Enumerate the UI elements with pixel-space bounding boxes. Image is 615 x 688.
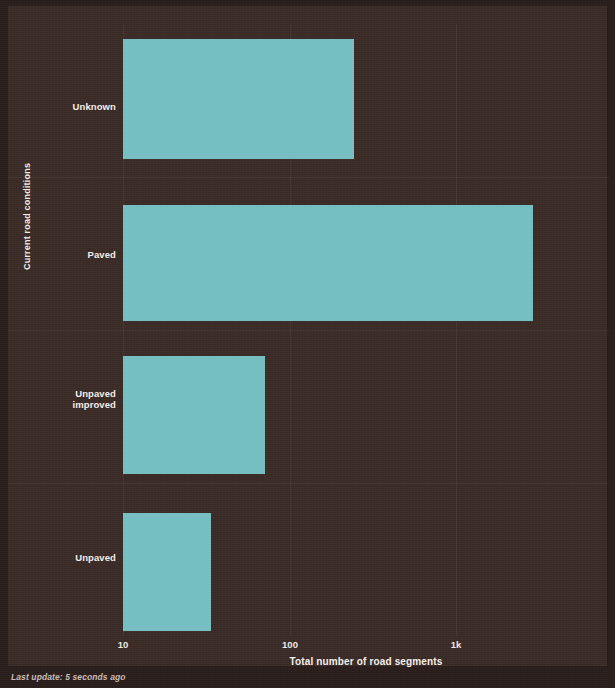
- y-axis-label-unpaved-improved: Unpaved improved: [16, 388, 116, 410]
- last-update-status: Last update: 5 seconds ago: [11, 672, 126, 682]
- bar-unpaved-improved[interactable]: [123, 356, 265, 474]
- x-tick-1k: 1k: [451, 639, 462, 650]
- x-axis-title: Total number of road segments: [123, 656, 609, 667]
- bar-paved[interactable]: [123, 205, 533, 321]
- gridline-y-1: [8, 177, 609, 178]
- y-axis-label-paved: Paved: [16, 249, 116, 260]
- x-tick-10: 10: [118, 639, 129, 650]
- x-axis-ticks: 10 100 1k: [123, 639, 609, 653]
- gridline-y-2: [8, 330, 609, 331]
- bar-unpaved[interactable]: [123, 513, 211, 631]
- x-tick-100: 100: [282, 639, 298, 650]
- chart-panel: Current road conditions Unknown Paved Un…: [8, 6, 607, 666]
- chart-screenshot: Current road conditions Unknown Paved Un…: [0, 0, 615, 688]
- y-axis-label-unknown: Unknown: [16, 101, 116, 112]
- gridline-y-3: [8, 483, 609, 484]
- plot-area: [123, 24, 609, 636]
- y-axis-label-unpaved: Unpaved: [16, 552, 116, 563]
- bar-unknown[interactable]: [123, 39, 354, 159]
